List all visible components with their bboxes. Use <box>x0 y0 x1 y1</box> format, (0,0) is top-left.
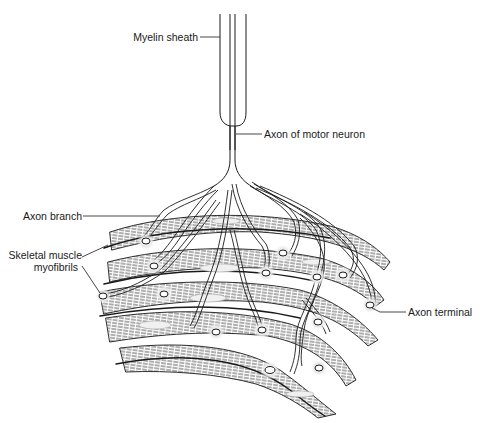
leader-skeletal-muscle-2 <box>82 266 100 293</box>
label-myelin-sheath: Myelin sheath <box>120 31 198 43</box>
axon-terminal-9 <box>253 321 271 339</box>
label-axon-of-motor-neuron: Axon of motor neuron <box>264 128 365 140</box>
motor-neuron <box>214 14 248 186</box>
label-axon-branch: Axon branch <box>2 210 82 222</box>
axon-terminal-6 <box>274 244 292 262</box>
axon-terminal-7 <box>334 266 352 284</box>
label-axon-terminal: Axon terminal <box>408 306 472 318</box>
axon-terminal-2 <box>145 257 163 275</box>
myelin-sheath <box>220 14 246 126</box>
axon-terminal-11 <box>309 313 327 331</box>
axon-terminal-14 <box>310 359 328 377</box>
leader-skeletal-muscle-1 <box>82 245 108 257</box>
axon-terminal-4 <box>155 285 173 303</box>
axon-terminal-8 <box>308 268 326 286</box>
axon-terminal-1 <box>137 233 155 251</box>
axon-terminal-3 <box>95 288 111 304</box>
axon-terminal-10 <box>207 323 225 341</box>
axon-terminal-12 <box>361 296 379 314</box>
label-skeletal-muscle-line2: myofibrils <box>0 261 78 273</box>
axon-terminal-13 <box>260 360 280 380</box>
axon-terminal-5 <box>257 264 275 282</box>
label-skeletal-muscle-line1: Skeletal muscle <box>0 249 82 261</box>
